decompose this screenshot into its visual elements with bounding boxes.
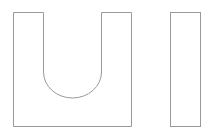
ui-letterform-canvas: UI (0, 0, 212, 135)
letter-u-outline (14, 13, 132, 127)
letter-i-outline (171, 13, 201, 127)
letterform-drawing (0, 0, 212, 135)
